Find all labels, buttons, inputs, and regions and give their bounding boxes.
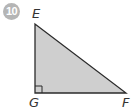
vertex-label-f: F [122,95,130,110]
triangle-efg [35,24,126,93]
triangle-figure: E G F [0,0,137,110]
vertex-label-e: E [32,6,41,21]
vertex-label-g: G [29,95,39,110]
